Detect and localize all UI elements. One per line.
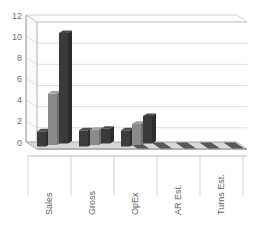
y-tick-label: 8 [17,53,22,63]
x-category-label: AR Est. [173,184,183,215]
x-category-label: Turns Est. [216,174,226,215]
chart-canvas: 12 10 8 6 4 2 0 [0,0,264,225]
x-category-label: OpEx [130,192,140,215]
plot-top-edge [26,15,247,22]
y-axis-tick-labels: 12 10 8 6 4 2 0 [12,11,22,148]
x-axis-ticks [28,156,243,196]
bar-chart-figure: 12 10 8 6 4 2 0 [0,0,264,225]
bar-opex-series3 [143,113,156,143]
x-category-label: Sales [44,192,54,215]
y-tick-label: 4 [17,95,22,105]
bar-group-gross [79,126,114,146]
y-tick-label: 6 [17,74,22,84]
x-category-label: Gross [87,190,97,215]
y-tick-label: 12 [12,11,22,21]
bar-sales-series3 [59,30,72,143]
bar-gross-series3 [101,126,114,143]
y-tick-label: 10 [12,32,22,42]
y-tick-label: 2 [17,116,22,126]
y-tick-label: 0 [17,138,22,148]
